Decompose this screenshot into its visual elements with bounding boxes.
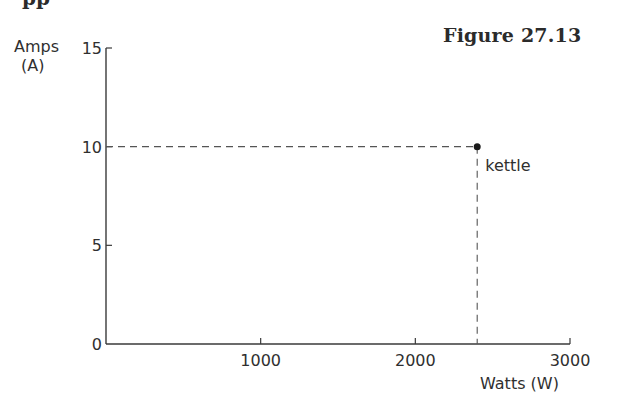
x-axis-label: Watts (W): [480, 374, 559, 393]
y-tick-label: 5: [92, 236, 102, 255]
x-tick-label: 1000: [240, 351, 281, 370]
y-axis: 051015 Amps (A): [14, 37, 112, 354]
y-axis-label-line2: (A): [21, 56, 44, 75]
y-axis-label-line1: Amps: [14, 37, 59, 56]
point-label-kettle: kettle: [485, 156, 530, 175]
data-point-kettle: [474, 143, 481, 150]
chart: 051015 Amps (A) 100020003000 Watts (W) k…: [0, 0, 618, 409]
x-tick-label: 2000: [395, 351, 436, 370]
y-tick-label: 0: [92, 335, 102, 354]
y-tick-label: 10: [82, 138, 102, 157]
x-tick-label: 3000: [550, 351, 591, 370]
data-points: kettle: [106, 143, 531, 344]
y-tick-label: 15: [82, 39, 102, 58]
x-axis: 100020003000 Watts (W): [106, 338, 590, 393]
